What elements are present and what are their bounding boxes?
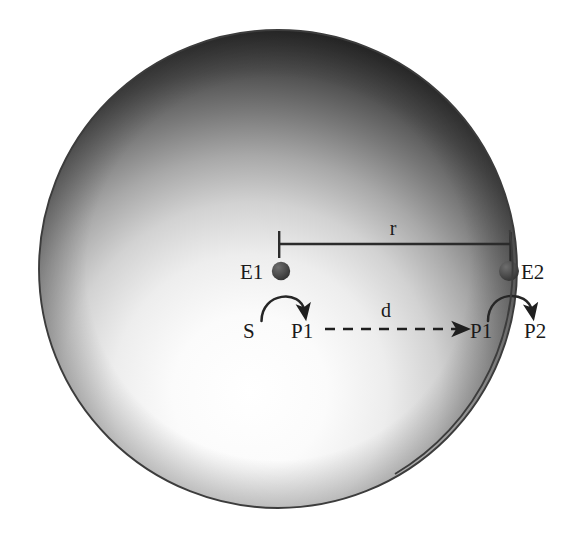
enzyme-cascade-diagram: r E1 E2 d S P1 P1 P2 [0, 0, 579, 542]
diffusion-label: d [381, 299, 391, 321]
species-label-p2: P2 [524, 319, 546, 343]
enzyme-e2-group: E2 [499, 260, 544, 284]
enzyme-e2-label: E2 [521, 260, 544, 284]
species-label-p1-left: P1 [291, 319, 313, 343]
enzyme-e1-label: E1 [240, 260, 263, 284]
radius-label: r [390, 217, 397, 239]
species-label-s: S [243, 319, 255, 343]
enzyme-e1-node [272, 262, 290, 280]
species-label-p1-right: P1 [470, 319, 492, 343]
figure-root: r E1 E2 d S P1 P1 P2 [0, 0, 579, 542]
enzyme-e2-node [499, 261, 519, 281]
